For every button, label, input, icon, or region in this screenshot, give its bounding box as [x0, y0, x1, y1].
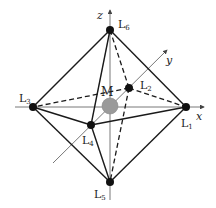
ligand-node-l2	[125, 84, 133, 92]
ligand-label-l6: L6	[118, 18, 130, 32]
x-axis-label: x	[196, 110, 203, 123]
ligand-label-l1: L1	[181, 117, 193, 131]
ligand-node-l1	[182, 103, 190, 111]
ligand-label-l2: L2	[140, 79, 152, 93]
ligand-node-l5	[106, 178, 114, 186]
octahedral-complex-diagram: M L1 L2 L3 L4 L5 L6 x y z	[0, 0, 216, 208]
ligand-label-l3: L3	[19, 92, 31, 106]
diagram-canvas: M L1 L2 L3 L4 L5 L6 x y z	[0, 0, 216, 208]
ligand-node-l4	[87, 121, 95, 129]
edge-l6-l3	[33, 30, 110, 107]
y-axis-label: y	[165, 54, 173, 67]
ligand-node-l6	[106, 26, 114, 34]
z-axis-label: z	[96, 9, 103, 22]
ligand-label-l5: L5	[94, 188, 106, 202]
edge-l5-l1	[110, 107, 186, 182]
metal-center-label: M	[101, 85, 113, 99]
ligand-label-l4: L4	[82, 134, 94, 148]
metal-center-atom	[102, 98, 118, 114]
